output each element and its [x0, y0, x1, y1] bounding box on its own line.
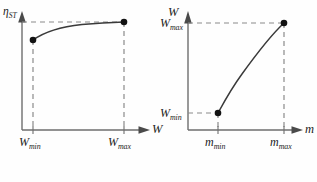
left-plot-svg	[0, 0, 160, 182]
right-tick-mmin-subscript: min	[214, 142, 226, 151]
right-x-axis-arrow	[292, 126, 304, 134]
right-tick-mmax-subscript: max	[279, 142, 292, 151]
left-y-axis-label: ηST	[3, 6, 17, 20]
figure-canvas: ηST W Wmin Wmax	[0, 0, 317, 182]
left-tick-wmax-subscript: max	[118, 142, 131, 151]
right-x-axis-label: m	[305, 123, 314, 136]
right-tick-label-wmin: Wmin	[160, 107, 182, 122]
chart-panel-right: W Wmax Wmin m mmin mmax	[160, 0, 317, 182]
left-tick-wmax-symbol: W	[108, 135, 118, 149]
left-tick-label-wmax: Wmax	[108, 136, 131, 151]
left-tick-wmin-subscript: min	[29, 142, 41, 151]
right-curve-power	[218, 23, 284, 113]
right-tick-wmax-symbol: W	[160, 16, 170, 30]
chart-panel-left: ηST W Wmin Wmax	[0, 0, 160, 182]
right-tick-wmin-subscript: min	[170, 113, 182, 122]
left-x-axis-arrow	[139, 126, 151, 134]
left-marker-wmin	[30, 37, 37, 44]
right-plot-svg	[160, 0, 317, 182]
right-tick-label-mmin: mmin	[205, 136, 225, 151]
right-tick-wmin-symbol: W	[160, 106, 170, 120]
left-curve-efficiency	[33, 22, 124, 40]
right-marker-mmin	[215, 110, 222, 117]
left-tick-wmin-symbol: W	[19, 135, 29, 149]
left-y-axis-arrow	[18, 11, 26, 23]
right-tick-wmax-subscript: max	[170, 23, 183, 32]
right-tick-label-wmax: Wmax	[160, 17, 183, 32]
right-x-axis-symbol: m	[305, 122, 314, 136]
left-tick-label-wmin: Wmin	[19, 136, 41, 151]
right-tick-mmin-symbol: m	[205, 135, 214, 149]
right-y-axis-arrow	[184, 11, 192, 24]
right-tick-mmax-symbol: m	[270, 135, 279, 149]
left-marker-wmax	[121, 19, 128, 26]
right-marker-mmax	[281, 20, 288, 27]
left-y-axis-subscript: ST	[9, 11, 17, 20]
right-tick-label-mmax: mmax	[270, 136, 292, 151]
